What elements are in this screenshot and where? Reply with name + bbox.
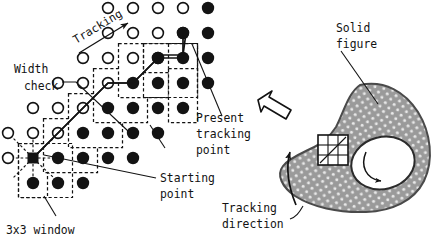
filled-dot xyxy=(177,77,189,89)
window-label: 3x3 window xyxy=(6,223,75,237)
width-check-label-line1: Width xyxy=(14,62,48,76)
open-dot xyxy=(103,53,114,64)
open-dot xyxy=(78,53,89,64)
solid-figure-label-line2: figure xyxy=(336,37,377,51)
filled-dot xyxy=(102,152,114,164)
filled-dot xyxy=(52,177,64,189)
open-dot xyxy=(153,28,164,39)
figure-root: Tracking Width check Starting point 3x3 … xyxy=(0,0,443,243)
starting-point-marker xyxy=(28,153,39,164)
open-dot xyxy=(3,128,14,139)
filled-dot xyxy=(77,177,89,189)
diagram-canvas: Tracking Width check Starting point 3x3 … xyxy=(0,0,443,243)
width-check-label-line2: check xyxy=(24,79,58,93)
open-dot xyxy=(128,53,139,64)
filled-dot xyxy=(177,102,189,114)
filled-dot xyxy=(127,102,139,114)
tracking-direction-label-line2: direction xyxy=(222,217,284,231)
filled-dot xyxy=(202,52,214,64)
present-point-label-line2: tracking xyxy=(196,127,251,141)
open-dot xyxy=(28,103,39,114)
open-dot xyxy=(28,128,39,139)
filled-dot xyxy=(127,127,139,139)
filled-dot xyxy=(202,27,214,39)
starting-point-label-line1: Starting xyxy=(160,171,215,185)
filled-dot xyxy=(27,177,39,189)
open-dot xyxy=(3,153,14,164)
tracking-direction-label-line1: Tracking xyxy=(222,201,277,215)
filled-dot xyxy=(77,127,89,139)
open-dot xyxy=(153,3,164,14)
boundary-window xyxy=(318,135,348,165)
present-point-label-line1: Present xyxy=(196,111,244,125)
open-dot xyxy=(128,3,139,14)
open-dot xyxy=(53,103,64,114)
filled-dot xyxy=(152,102,164,114)
solid-figure-label-line1: Solid xyxy=(336,21,370,35)
starting-point-label-line2: point xyxy=(160,187,194,201)
filled-dot xyxy=(102,127,114,139)
open-dot xyxy=(178,3,189,14)
present-point-label-line3: point xyxy=(196,143,230,157)
open-dot xyxy=(128,28,139,39)
filled-dot xyxy=(152,77,164,89)
open-dot xyxy=(78,78,89,89)
filled-dot xyxy=(202,2,214,14)
filled-dot xyxy=(127,152,139,164)
window-box xyxy=(169,69,198,123)
